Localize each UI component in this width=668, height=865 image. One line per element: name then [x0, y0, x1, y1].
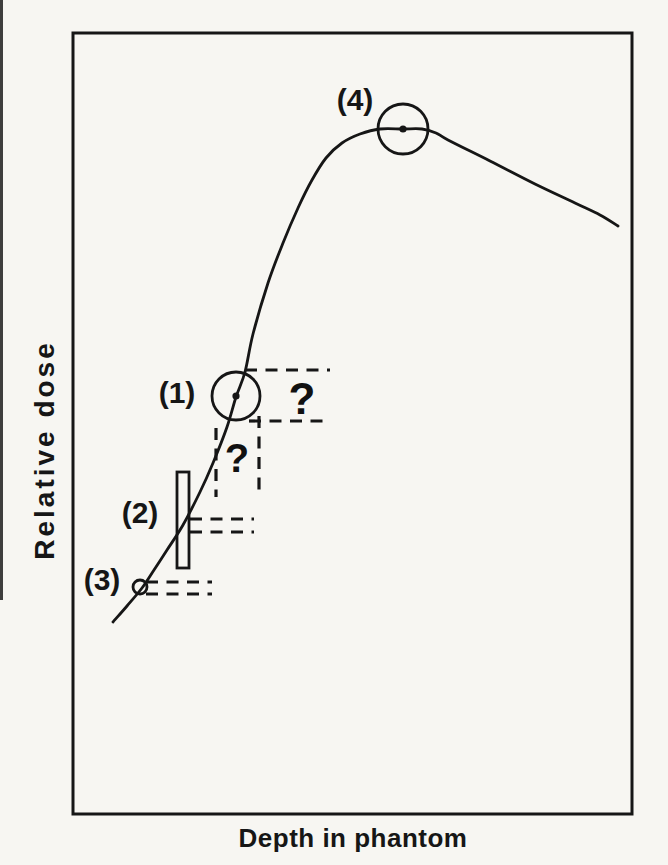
y-axis-label: Relative dose	[29, 340, 61, 560]
detector-4-label: (4)	[337, 83, 374, 116]
uncertainty-question-mark-2: ?	[225, 436, 249, 480]
depth-dose-chart: (4)(1)(2)(3)??	[0, 0, 668, 865]
detector-1-center-dot	[232, 392, 239, 399]
plot-border	[73, 33, 632, 814]
detector-1-label: (1)	[159, 376, 196, 409]
detector-4-center-dot	[399, 125, 406, 132]
depth-dose-figure: (4)(1)(2)(3)?? Relative dose Depth in ph…	[0, 0, 668, 865]
detector-3-label: (3)	[84, 563, 121, 596]
detector-2-label: (2)	[122, 496, 159, 529]
x-axis-label: Depth in phantom	[239, 823, 468, 854]
uncertainty-question-mark-1: ?	[289, 374, 316, 423]
